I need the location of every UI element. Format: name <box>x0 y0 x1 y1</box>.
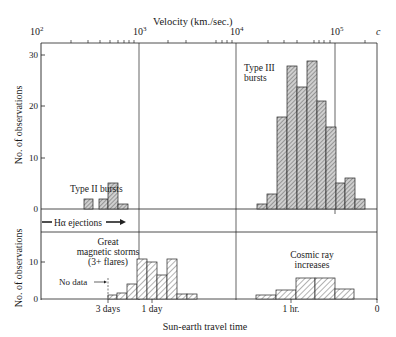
tick-1-day: 1 day <box>142 304 163 314</box>
type-ii-label: Type II bursts <box>70 184 123 194</box>
y-tick-20: 20 <box>29 101 39 111</box>
upper-y-label: No. of observations <box>13 86 24 165</box>
tick-1e2: 102 <box>30 25 44 37</box>
arrow-right-icon <box>120 219 126 225</box>
cosmic-ray-bars <box>256 278 354 299</box>
chart-figure: 102 103 104 105 c Velocity (km./sec.) 30… <box>0 0 396 337</box>
lower-y-label: No. of observations <box>13 229 24 308</box>
storms-label-line3: (3+ flares) <box>88 257 128 268</box>
tick-1e5: 105 <box>330 25 344 37</box>
top-velocity-axis: 102 103 104 105 c Velocity (km./sec.) <box>30 16 381 43</box>
tick-0: 0 <box>375 304 380 314</box>
tick-c: c <box>376 26 381 37</box>
cosmic-ray-label-line1: Cosmic ray <box>290 250 334 260</box>
storms-label-line1: Great <box>97 237 118 247</box>
y-tick-10: 10 <box>29 153 39 163</box>
tick-3-days: 3 days <box>96 304 121 314</box>
tick-1-hr: 1 hr. <box>283 304 300 314</box>
y-tick-30: 30 <box>29 50 39 60</box>
arrow-right-icon <box>104 281 107 284</box>
lower-y-axis: 10 0 No. of observations <box>13 229 45 308</box>
y-tick-0: 0 <box>34 204 39 214</box>
cosmic-ray-label-line2: increases <box>295 260 330 270</box>
type-iii-label-line1: Type III <box>244 63 275 73</box>
type-iii-bars <box>257 61 365 209</box>
h-alpha-ejections-range: Hα ejections <box>42 218 126 228</box>
y-tick-lower-10: 10 <box>29 257 39 267</box>
upper-y-axis: 30 20 10 0 No. of observations <box>13 50 45 214</box>
no-data-label: No data <box>59 277 87 287</box>
storms-label-line2: magnetic storms <box>77 247 140 257</box>
y-tick-lower-0: 0 <box>34 294 39 304</box>
top-axis-title: Velocity (km./sec.) <box>153 16 233 28</box>
bottom-axis-title: Sun-earth travel time <box>163 321 248 332</box>
h-alpha-label: Hα ejections <box>54 218 102 228</box>
bottom-time-axis: 3 days 1 day 1 hr. 0 Sun-earth travel ti… <box>96 299 380 332</box>
tick-1e3: 103 <box>133 25 147 37</box>
type-iii-label-line2: bursts <box>244 73 267 83</box>
